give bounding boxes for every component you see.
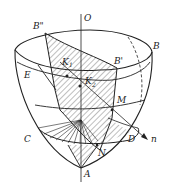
point-M bbox=[111, 109, 114, 112]
label-D: D bbox=[127, 134, 135, 144]
label-B2: B" bbox=[32, 21, 44, 31]
point-K2 bbox=[79, 85, 82, 88]
label-C: C bbox=[24, 134, 31, 144]
label-B1: B' bbox=[113, 56, 123, 66]
label-K2-sub: 2 bbox=[91, 81, 96, 88]
point-N bbox=[96, 144, 99, 147]
label-E: E bbox=[23, 70, 31, 80]
geometry-diagram: O B" B B' K 1 K 2 E M C D N n A bbox=[0, 0, 171, 190]
label-O: O bbox=[84, 13, 92, 23]
label-A: A bbox=[83, 169, 91, 179]
lower-v bbox=[68, 145, 98, 168]
label-K1-sub: 1 bbox=[69, 61, 73, 68]
label-M: M bbox=[116, 95, 127, 105]
label-B: B bbox=[152, 41, 160, 51]
label-N: N bbox=[97, 148, 107, 158]
point-K1 bbox=[66, 75, 69, 78]
label-n: n bbox=[151, 134, 157, 144]
arrow-head-n bbox=[141, 133, 148, 140]
